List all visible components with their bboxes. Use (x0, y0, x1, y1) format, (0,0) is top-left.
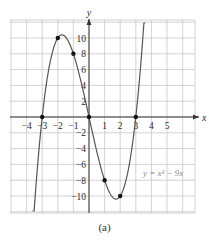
x-tick-label: 5 (165, 121, 170, 131)
x-tick-label: 2 (118, 121, 123, 131)
y-tick-label: −6 (76, 160, 86, 170)
x-tick-label: −4 (22, 121, 32, 131)
y-tick-label: 6 (81, 65, 86, 75)
data-point (71, 52, 75, 56)
data-point (40, 115, 44, 119)
y-tick-label: −2 (76, 128, 86, 138)
y-tick-label: 10 (77, 34, 87, 44)
x-tick-label: −3 (37, 121, 47, 131)
axis-labels: xyy = x³ − 9x (86, 7, 207, 178)
plot-area: −4−3−2−112345108642−2−4−6−8−10 xyy = x³ … (0, 0, 209, 243)
data-point (87, 115, 91, 119)
y-tick-label: −4 (76, 144, 86, 154)
x-tick-label: 1 (102, 121, 107, 131)
data-point (118, 194, 122, 198)
figure-caption: (a) (0, 221, 209, 233)
x-tick-label: −2 (53, 121, 63, 131)
cubic-function-graph: −4−3−2−112345108642−2−4−6−8−10 xyy = x³ … (0, 0, 209, 243)
function-label: y = x³ − 9x (142, 168, 183, 178)
y-tick-label: −10 (71, 192, 86, 202)
y-tick-label: 8 (81, 49, 86, 59)
y-tick-label: −8 (76, 176, 86, 186)
y-axis-label: y (86, 7, 92, 18)
data-point (102, 178, 106, 182)
data-point (134, 115, 138, 119)
data-point (56, 36, 60, 40)
x-tick-label: 4 (149, 121, 154, 131)
x-axis-label: x (201, 112, 207, 123)
